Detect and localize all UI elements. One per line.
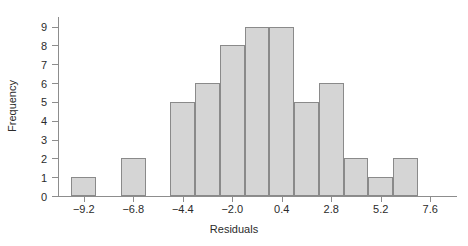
x-tick [430,197,431,202]
histogram-bar [245,27,270,196]
y-tick: 6 [52,83,58,84]
x-tick-label: 5.2 [373,204,388,215]
y-tick-label: 7 [41,59,47,70]
y-tick: 3 [52,140,58,141]
y-axis-title: Frequency [5,0,19,212]
y-tick-label: 4 [41,116,47,127]
x-tick [282,197,283,202]
histogram-bars [59,19,455,196]
histogram-bar [393,158,418,196]
y-tick-label: 6 [41,78,47,89]
x-tick-label: −6.8 [122,204,144,215]
histogram-bar [170,102,195,196]
y-tick: 1 [52,177,58,178]
x-tick [232,197,233,202]
plot-area [59,19,455,196]
y-tick: 5 [52,102,58,103]
y-tick: 2 [52,158,58,159]
histogram-bar [121,158,146,196]
x-tick [133,197,134,202]
histogram-bar [294,102,319,196]
x-axis-line [58,196,457,197]
x-tick [84,197,85,202]
y-tick-label: 9 [41,22,47,33]
y-tick-label: 1 [41,172,47,183]
y-tick: 4 [52,121,58,122]
x-tick-label: 2.8 [324,204,339,215]
histogram-bar [220,45,245,196]
histogram-bar [195,83,220,196]
y-axis-line [58,17,59,196]
histogram-bar [319,83,344,196]
y-tick-label: 5 [41,97,47,108]
y-tick: 8 [52,45,58,46]
x-tick-label: −9.2 [73,204,95,215]
y-tick: 0 [52,196,58,197]
y-tick-label: 0 [41,191,47,202]
y-tick-label: 8 [41,40,47,51]
y-tick-label: 3 [41,135,47,146]
y-tick-label: 2 [41,153,47,164]
y-tick: 7 [52,64,58,65]
x-axis-title: Residuals [0,224,468,235]
histogram-bar [269,27,294,196]
x-tick [381,197,382,202]
x-tick-label: −4.4 [172,204,194,215]
histogram-bar [71,177,96,196]
x-tick-label: 7.6 [423,204,438,215]
histogram-figure: 0123456789 −9.2−6.8−4.4−2.00.42.85.27.6 … [0,0,468,246]
y-tick: 9 [52,27,58,28]
x-tick [183,197,184,202]
histogram-bar [368,177,393,196]
y-axis-title-text: Frequency [6,80,18,132]
histogram-bar [344,158,369,196]
x-tick [331,197,332,202]
x-tick-label: −2.0 [221,204,243,215]
x-tick-label: 0.4 [274,204,289,215]
